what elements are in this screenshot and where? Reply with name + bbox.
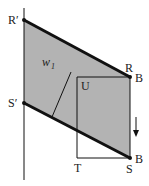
- label-s-prime: S′: [8, 96, 18, 110]
- label-t: T: [74, 161, 82, 175]
- diagram-canvas: R′ S′ R B U w1 T S B: [0, 0, 149, 186]
- point-s-prime: [22, 101, 26, 105]
- label-b-top: B: [135, 71, 143, 85]
- point-r-prime: [22, 18, 26, 22]
- arrow-down-icon: [133, 117, 139, 137]
- label-w-main: w: [42, 55, 50, 69]
- label-s: S: [126, 162, 133, 176]
- label-w-subscript: 1: [51, 62, 55, 71]
- label-r-prime: R′: [8, 13, 19, 27]
- label-r: R: [125, 61, 133, 75]
- label-u: U: [81, 79, 90, 93]
- point-s: [128, 156, 132, 160]
- point-r: [128, 75, 132, 79]
- label-b-bottom: B: [135, 152, 143, 166]
